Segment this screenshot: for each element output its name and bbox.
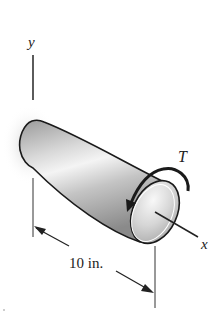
x-axis-label: x (200, 236, 208, 252)
y-axis-label: y (26, 34, 35, 50)
torsion-shaft-diagram: y x T 10 in. (0, 0, 221, 336)
length-dimension-label: 10 in. (69, 255, 103, 271)
dimension-arrowhead-left-icon (34, 226, 46, 235)
torque-label: T (178, 148, 188, 165)
stray-mark (3, 309, 4, 310)
dimension-arrowhead-right-icon (141, 284, 154, 293)
